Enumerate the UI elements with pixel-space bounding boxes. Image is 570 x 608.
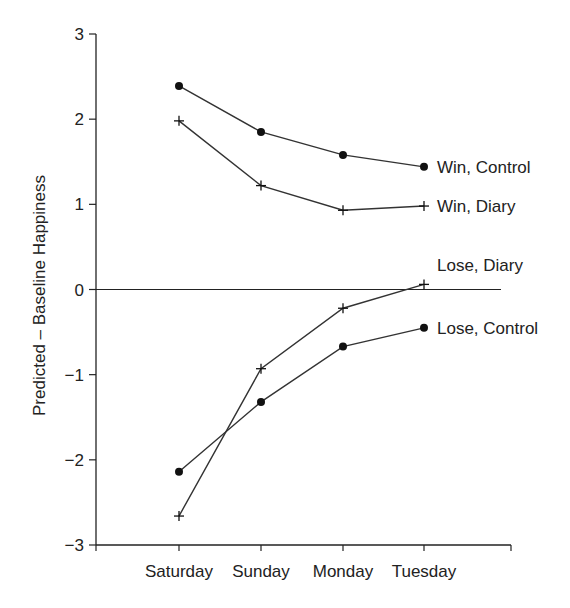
circle-marker (257, 398, 265, 406)
plus-marker (419, 201, 429, 211)
axes: 3210−1−2−3SaturdaySundayMondayTuesday (65, 25, 511, 581)
circle-marker (257, 128, 265, 136)
circle-marker (339, 151, 347, 159)
labels: Predicted – Baseline HappinessWin, Contr… (30, 158, 538, 416)
plus-marker (338, 205, 348, 215)
series-lose-control (175, 324, 428, 476)
circle-marker (420, 324, 428, 332)
y-tick-label: −3 (65, 536, 84, 555)
circle-marker (175, 468, 183, 476)
x-tick-label: Tuesday (392, 562, 457, 581)
series-label: Win, Control (437, 158, 531, 177)
y-tick-label: 3 (75, 25, 84, 44)
x-tick-label: Sunday (232, 562, 290, 581)
series-label: Lose, Diary (437, 256, 523, 275)
x-tick-label: Saturday (145, 562, 214, 581)
circle-marker (339, 343, 347, 351)
plus-marker (419, 279, 429, 289)
y-tick-label: −2 (65, 451, 84, 470)
circle-marker (175, 82, 183, 90)
series-label: Win, Diary (437, 197, 516, 216)
series-line (179, 86, 424, 167)
series-group (174, 82, 429, 521)
y-axis-title: Predicted – Baseline Happiness (30, 175, 49, 416)
circle-marker (420, 163, 428, 171)
line-chart: 3210−1−2−3SaturdaySundayMondayTuesday Pr… (0, 0, 570, 608)
series-lose-diary (174, 279, 429, 521)
plus-marker (174, 511, 184, 521)
x-tick-label: Monday (313, 562, 374, 581)
series-label: Lose, Control (437, 319, 538, 338)
plus-marker (338, 303, 348, 313)
y-tick-label: 1 (75, 195, 84, 214)
y-tick-label: 2 (75, 110, 84, 129)
series-line (179, 284, 424, 516)
series-win-diary (174, 116, 429, 215)
series-line (179, 121, 424, 210)
plus-marker (256, 364, 266, 374)
series-win-control (175, 82, 428, 171)
y-tick-label: 0 (75, 281, 84, 300)
y-tick-label: −1 (65, 366, 84, 385)
